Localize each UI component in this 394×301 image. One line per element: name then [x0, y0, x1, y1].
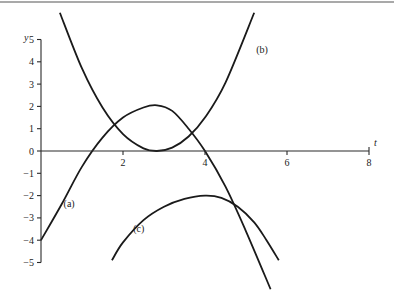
- curve-b: [60, 13, 254, 151]
- function-plot: 543210−1−2−3−4−5 2468 y t (a)(b)(c): [0, 0, 394, 301]
- x-axis-label: t: [374, 137, 377, 148]
- curve-a: [41, 105, 271, 289]
- x-tick-label: 4: [203, 157, 208, 168]
- y-axis-label: y: [23, 32, 29, 43]
- y-tick-label: 1: [29, 123, 34, 134]
- y-tick-label: −4: [23, 235, 34, 246]
- y-tick-label: 5: [29, 34, 34, 45]
- y-tick-label: −2: [23, 190, 34, 201]
- y-tick-label: −5: [23, 257, 34, 268]
- x-tick-label: 8: [367, 157, 372, 168]
- curve-label-c: (c): [133, 223, 144, 235]
- y-tick-label: −3: [23, 212, 34, 223]
- curve-label-a: (a): [64, 198, 75, 210]
- curve-label-b: (b): [256, 44, 268, 56]
- y-tick-label: 2: [29, 101, 34, 112]
- y-ticks: 543210−1−2−3−4−5: [23, 34, 41, 268]
- y-tick-label: 3: [29, 79, 34, 90]
- y-tick-label: −1: [23, 168, 34, 179]
- x-tick-label: 6: [285, 157, 290, 168]
- x-tick-label: 2: [121, 157, 126, 168]
- y-tick-label: 4: [29, 56, 34, 67]
- y-tick-label: 0: [29, 146, 34, 157]
